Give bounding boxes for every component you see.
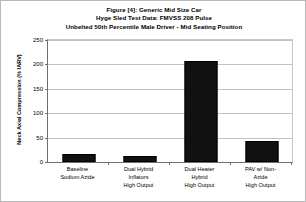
x-axis-category-label-line: Dual Hybrid bbox=[108, 165, 169, 173]
bar-slot bbox=[170, 40, 231, 162]
y-tick-label: 0 bbox=[40, 159, 43, 165]
chart-title-line-1: Figure [4]: Generic Mid Size Car bbox=[1, 6, 306, 14]
x-axis-category-label: PAV w/ Non-AzideHigh Output bbox=[230, 165, 291, 190]
chart-title-block: Figure [4]: Generic Mid Size Car Hyge Sl… bbox=[1, 6, 306, 31]
x-axis-category-label-line: Sodium Azide bbox=[47, 173, 108, 181]
y-tick-label: 200 bbox=[33, 61, 43, 67]
x-axis-category-label-line: High Output bbox=[169, 181, 230, 189]
chart-title-line-2: Hyge Sled Test Data: FMVSS 208 Pulse bbox=[1, 14, 306, 22]
y-axis-title: Neck Axial Compression (% IARV) bbox=[16, 35, 23, 165]
x-axis-category-label-line: Azide bbox=[230, 173, 291, 181]
x-axis-category-label-line: PAV w/ Non- bbox=[230, 165, 291, 173]
y-tick-label: 150 bbox=[33, 86, 43, 92]
bar-slot bbox=[48, 40, 109, 162]
bar[interactable] bbox=[184, 61, 217, 163]
bar[interactable] bbox=[62, 154, 95, 162]
x-axis-category-label-line: Baseline bbox=[47, 165, 108, 173]
bar-slot bbox=[231, 40, 292, 162]
figure-container: Figure [4]: Generic Mid Size Car Hyge Sl… bbox=[0, 0, 306, 202]
x-axis-category-label: Dual HeaterHybridHigh Output bbox=[169, 165, 230, 190]
y-tick-mark bbox=[45, 162, 48, 163]
x-axis-category-label: BaselineSodium Azide bbox=[47, 165, 108, 181]
bars-layer bbox=[48, 40, 292, 162]
x-axis-category-label-line: Dual Heater bbox=[169, 165, 230, 173]
y-tick-label: 100 bbox=[33, 110, 43, 116]
chart-title-line-3: Unbelted 50th Percentile Male Driver - M… bbox=[1, 23, 306, 31]
x-axis-category-label-line: High Output bbox=[108, 181, 169, 189]
x-axis-category-label-line: Inflators bbox=[108, 173, 169, 181]
plot-area: 050100150200250 bbox=[47, 39, 293, 163]
bar[interactable] bbox=[123, 156, 156, 162]
x-axis-category-label: Dual HybridInflatorsHigh Output bbox=[108, 165, 169, 190]
y-tick-label: 50 bbox=[36, 135, 43, 141]
bar[interactable] bbox=[245, 141, 278, 162]
bar-slot bbox=[109, 40, 170, 162]
x-axis-labels: BaselineSodium AzideDual HybridInflators… bbox=[47, 165, 291, 199]
x-axis-category-label-line: High Output bbox=[230, 181, 291, 189]
x-tick-mark bbox=[291, 162, 292, 165]
y-tick-label: 250 bbox=[33, 37, 43, 43]
x-axis-category-label-line: Hybrid bbox=[169, 173, 230, 181]
